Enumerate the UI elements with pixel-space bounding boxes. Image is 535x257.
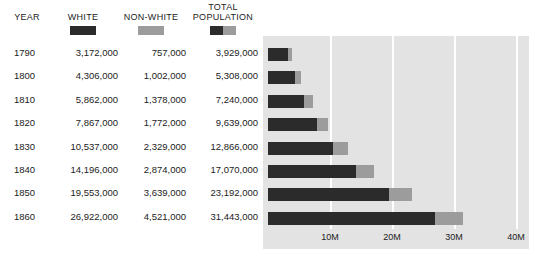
cell-white: 5,862,000 — [46, 92, 118, 108]
cell-year: 1860 — [6, 209, 48, 225]
plot-area — [263, 36, 529, 229]
bar-segment-white — [268, 48, 288, 61]
bar-segment-white — [268, 142, 333, 155]
table-header-row: YEAR WHITE NON-WHITE TOTAL POPULATION — [0, 0, 258, 40]
legend-swatch-non-white — [116, 26, 186, 35]
table-row: 186026,922,0004,521,00031,443,000 — [0, 209, 258, 225]
bar-1840 — [268, 165, 374, 178]
bar-segment-non-white — [435, 212, 463, 225]
cell-non-white: 1,772,000 — [118, 115, 186, 131]
column-header-year: YEAR — [6, 12, 48, 22]
cell-non-white: 2,329,000 — [118, 139, 186, 155]
cell-non-white: 4,521,000 — [118, 209, 186, 225]
bar-1820 — [268, 118, 328, 131]
swatch-light-icon — [138, 26, 164, 35]
bar-1800 — [268, 71, 301, 84]
cell-total-population: 23,192,000 — [186, 185, 258, 201]
bar-1850 — [268, 188, 412, 201]
cell-total-population: 7,240,000 — [186, 92, 258, 108]
gridline-40M — [516, 36, 518, 229]
cell-year: 1820 — [6, 115, 48, 131]
cell-year: 1830 — [6, 139, 48, 155]
legend-swatch-total-population — [188, 26, 258, 35]
cell-total-population: 17,070,000 — [186, 162, 258, 178]
cell-total-population: 9,639,000 — [186, 115, 258, 131]
column-header-white: WHITE — [52, 12, 114, 22]
cell-total-population: 5,308,000 — [186, 68, 258, 84]
data-table: YEAR WHITE NON-WHITE TOTAL POPULATION 17… — [0, 0, 258, 257]
population-bar-chart: 10M20M30M40M — [263, 36, 529, 249]
bar-1830 — [268, 142, 348, 155]
cell-white: 7,867,000 — [46, 115, 118, 131]
gridline-30M — [454, 36, 456, 229]
column-header-total-population: TOTAL POPULATION — [188, 2, 258, 22]
cell-white: 4,306,000 — [46, 68, 118, 84]
cell-white: 19,553,000 — [46, 185, 118, 201]
cell-year: 1800 — [6, 68, 48, 84]
swatch-light-icon — [223, 26, 236, 35]
cell-white: 10,537,000 — [46, 139, 118, 155]
bar-segment-non-white — [304, 95, 313, 108]
bar-segment-non-white — [295, 71, 301, 84]
column-header-non-white: NON-WHITE — [116, 12, 186, 22]
bar-segment-white — [268, 212, 435, 225]
x-axis-tick-20M: 20M — [374, 232, 410, 242]
bar-1790 — [268, 48, 292, 61]
cell-white: 3,172,000 — [46, 45, 118, 61]
bar-segment-non-white — [356, 165, 374, 178]
swatch-dark-icon — [70, 26, 96, 35]
table-row: 183010,537,0002,329,00012,866,000 — [0, 139, 258, 155]
cell-total-population: 31,443,000 — [186, 209, 258, 225]
bar-segment-non-white — [317, 118, 328, 131]
bar-segment-non-white — [288, 48, 293, 61]
table-row: 18004,306,0001,002,0005,308,000 — [0, 68, 258, 84]
bar-segment-white — [268, 118, 317, 131]
x-axis-tick-30M: 30M — [436, 232, 472, 242]
table-row: 17903,172,000757,0003,929,000 — [0, 45, 258, 61]
bar-segment-white — [268, 188, 389, 201]
bar-1810 — [268, 95, 313, 108]
cell-non-white: 2,874,000 — [118, 162, 186, 178]
cell-non-white: 1,378,000 — [118, 92, 186, 108]
cell-total-population: 3,929,000 — [186, 45, 258, 61]
cell-total-population: 12,866,000 — [186, 139, 258, 155]
bar-segment-white — [268, 71, 295, 84]
legend-swatch-white — [52, 26, 114, 35]
cell-year: 1810 — [6, 92, 48, 108]
cell-white: 14,196,000 — [46, 162, 118, 178]
bar-1860 — [268, 212, 463, 225]
table-row: 184014,196,0002,874,00017,070,000 — [0, 162, 258, 178]
cell-non-white: 3,639,000 — [118, 185, 186, 201]
cell-non-white: 757,000 — [118, 45, 186, 61]
swatch-dark-icon — [210, 26, 223, 35]
cell-non-white: 1,002,000 — [118, 68, 186, 84]
table-row: 18207,867,0001,772,0009,639,000 — [0, 115, 258, 131]
cell-white: 26,922,000 — [46, 209, 118, 225]
cell-year: 1790 — [6, 45, 48, 61]
bar-segment-white — [268, 165, 356, 178]
bar-segment-non-white — [333, 142, 347, 155]
table-row: 185019,553,0003,639,00023,192,000 — [0, 185, 258, 201]
cell-year: 1850 — [6, 185, 48, 201]
x-axis-tick-40M: 40M — [498, 232, 534, 242]
bar-segment-non-white — [389, 188, 412, 201]
bar-segment-white — [268, 95, 304, 108]
x-axis-tick-10M: 10M — [312, 232, 348, 242]
table-row: 18105,862,0001,378,0007,240,000 — [0, 92, 258, 108]
cell-year: 1840 — [6, 162, 48, 178]
